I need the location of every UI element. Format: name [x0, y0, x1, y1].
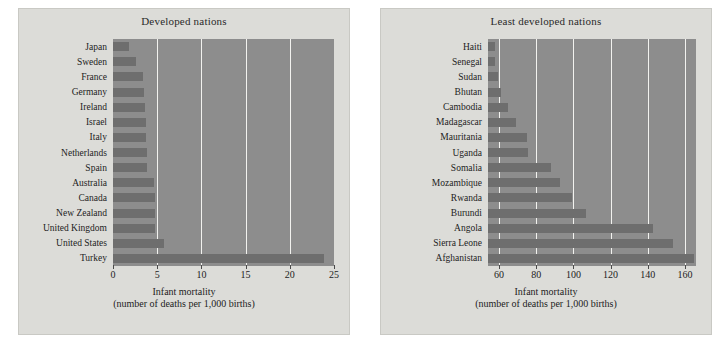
x-axis-tick-label: 140 [640, 269, 655, 280]
y-axis-tick-label: Sweden [77, 57, 107, 67]
chart-panel-least-developed: Least developed nations HaitiSenegalSuda… [380, 8, 712, 335]
chart-title-least-developed: Least developed nations [381, 15, 711, 27]
x-axis-title-line2: (number of deaths per 1,000 births) [381, 298, 711, 310]
x-axis-title-line1: Infant mortality [152, 286, 215, 297]
bar [488, 42, 495, 51]
bar [113, 72, 143, 81]
y-axis-tick-label: Sierra Leone [433, 238, 482, 248]
chart-title-developed: Developed nations [19, 15, 349, 27]
y-axis-tick-label: Uganda [452, 148, 482, 158]
gridline [201, 39, 202, 266]
bar [113, 88, 144, 97]
bar [488, 254, 694, 263]
x-axis-tick-label: 20 [285, 269, 295, 280]
bar [113, 148, 147, 157]
bar [488, 193, 572, 202]
x-axis-tick-label: 120 [603, 269, 618, 280]
y-axis-tick-label: Netherlands [61, 148, 107, 158]
x-axis-tick-label: 15 [241, 269, 251, 280]
gridline [246, 39, 247, 266]
y-axis-tick-label: Mauritania [440, 132, 482, 142]
bar [113, 239, 164, 248]
y-axis-tick-label: Somalia [451, 163, 482, 173]
y-axis-tick-label: Bhutan [455, 87, 482, 97]
bar [488, 178, 560, 187]
bar [113, 118, 146, 127]
bar [488, 239, 673, 248]
y-axis-tick-label: France [81, 72, 107, 82]
x-axis-tick-label: 5 [155, 269, 160, 280]
x-axis-tick-label: 160 [677, 269, 692, 280]
bar [113, 254, 324, 263]
y-axis-tick-label: Rwanda [451, 193, 482, 203]
x-axis-tick-label: 25 [329, 269, 339, 280]
x-axis-tick-label: 10 [196, 269, 206, 280]
plot-area-least-developed [488, 39, 696, 266]
y-axis-tick-label: Spain [85, 163, 107, 173]
y-axis-tick-label: Senegal [452, 57, 482, 67]
y-axis-tick-label: New Zealand [56, 208, 107, 218]
bar [113, 193, 155, 202]
y-axis-tick-label: Cambodia [443, 102, 482, 112]
y-axis-tick-label: Israel [86, 117, 107, 127]
bar [488, 103, 508, 112]
gridline [685, 39, 686, 266]
y-axis-tick-label: Haiti [463, 42, 482, 52]
gridline [290, 39, 291, 266]
plot-area-developed [113, 39, 334, 266]
bar [113, 178, 154, 187]
bar [488, 209, 586, 218]
y-axis-tick-label: United Kingdom [43, 223, 107, 233]
bar [488, 133, 527, 142]
y-axis-tick-label: Japan [85, 42, 107, 52]
y-axis-tick-label: United States [56, 238, 107, 248]
gridline [157, 39, 158, 266]
x-axis-title-least-developed: Infant mortality (number of deaths per 1… [381, 286, 711, 310]
y-axis-tick-label: Burundi [451, 208, 482, 218]
x-axis-tick-label: 100 [566, 269, 581, 280]
bar [488, 57, 495, 66]
y-axis-tick-label: Canada [79, 193, 108, 203]
x-axis-tick-label: 80 [531, 269, 541, 280]
bar [113, 163, 147, 172]
y-axis-tick-label: Australia [72, 178, 107, 188]
y-axis-tick-label: Angola [454, 223, 482, 233]
bar [113, 133, 146, 142]
bar [488, 224, 653, 233]
y-axis-tick-label: Italy [90, 132, 107, 142]
bar [113, 224, 155, 233]
bar [113, 42, 129, 51]
bar [113, 57, 136, 66]
bar [488, 148, 528, 157]
x-axis-labels-least-developed: 6080100120140160 [488, 269, 696, 283]
x-axis-tick-label: 60 [494, 269, 504, 280]
chart-panel-developed: Developed nations JapanSwedenFranceGerma… [18, 8, 350, 335]
y-axis-tick-label: Germany [72, 87, 107, 97]
x-axis-title-line1: Infant mortality [514, 286, 577, 297]
x-axis-labels-developed: 0510152025 [113, 269, 334, 283]
y-axis-tick-label: Turkey [80, 253, 107, 263]
bar [113, 209, 155, 218]
x-axis-title-developed: Infant mortality (number of deaths per 1… [19, 286, 349, 310]
x-axis-tick-label: 0 [111, 269, 116, 280]
y-axis-tick-label: Sudan [458, 72, 482, 82]
y-axis-tick-label: Afghanistan [436, 253, 482, 263]
x-axis-title-line2: (number of deaths per 1,000 births) [19, 298, 349, 310]
bar [113, 103, 145, 112]
bar [488, 72, 498, 81]
bar [488, 163, 551, 172]
y-axis-tick-label: Ireland [80, 102, 107, 112]
bar [488, 88, 501, 97]
figure-root: Developed nations JapanSwedenFranceGerma… [0, 0, 724, 341]
y-axis-tick-label: Madagascar [436, 117, 482, 127]
bar [488, 118, 516, 127]
y-axis-tick-label: Mozambique [432, 178, 482, 188]
